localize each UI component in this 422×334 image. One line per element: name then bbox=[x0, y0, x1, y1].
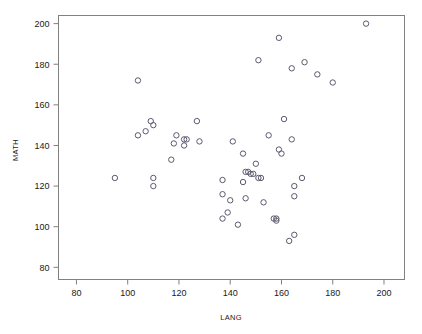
data-point bbox=[220, 192, 225, 197]
y-tick-label: 100 bbox=[34, 222, 49, 232]
data-point bbox=[228, 198, 233, 203]
data-point bbox=[243, 196, 248, 201]
data-point bbox=[240, 179, 245, 184]
data-point bbox=[289, 137, 294, 142]
x-tick-label: 180 bbox=[325, 288, 340, 298]
data-point bbox=[225, 210, 230, 215]
data-point bbox=[197, 139, 202, 144]
data-point bbox=[279, 151, 284, 156]
data-point bbox=[235, 222, 240, 227]
data-point bbox=[289, 66, 294, 71]
y-tick-label: 140 bbox=[34, 141, 49, 151]
data-point bbox=[276, 35, 281, 40]
data-point bbox=[292, 194, 297, 199]
data-point bbox=[151, 183, 156, 188]
y-tick-label: 180 bbox=[34, 60, 49, 70]
data-point bbox=[112, 175, 117, 180]
x-tick-label: 200 bbox=[376, 288, 391, 298]
x-axis-ticks: 80100120140160180200 bbox=[71, 280, 391, 298]
scatter-plot-figure: 80100120140160180200 8010012014016018020… bbox=[0, 0, 422, 334]
data-point bbox=[299, 175, 304, 180]
data-point bbox=[169, 157, 174, 162]
data-point bbox=[174, 133, 179, 138]
data-point bbox=[292, 183, 297, 188]
data-point bbox=[302, 60, 307, 65]
data-point bbox=[261, 200, 266, 205]
data-point bbox=[135, 78, 140, 83]
data-point bbox=[286, 238, 291, 243]
x-tick-label: 140 bbox=[223, 288, 238, 298]
data-point bbox=[135, 133, 140, 138]
data-point bbox=[292, 232, 297, 237]
plot-frame bbox=[59, 16, 405, 280]
x-tick-label: 160 bbox=[274, 288, 289, 298]
y-tick-label: 200 bbox=[34, 19, 49, 29]
data-point bbox=[143, 129, 148, 134]
data-point bbox=[220, 216, 225, 221]
data-point bbox=[171, 141, 176, 146]
data-point bbox=[181, 143, 186, 148]
y-tick-label: 120 bbox=[34, 181, 49, 191]
data-point bbox=[315, 72, 320, 77]
data-point bbox=[281, 116, 286, 121]
data-point-layer bbox=[112, 21, 369, 244]
data-point bbox=[151, 175, 156, 180]
data-point bbox=[256, 57, 261, 62]
data-point bbox=[330, 80, 335, 85]
x-tick-label: 120 bbox=[171, 288, 186, 298]
y-axis-ticks: 80100120140160180200 bbox=[34, 19, 58, 273]
data-point bbox=[253, 161, 258, 166]
x-axis-title: LANG bbox=[220, 313, 242, 322]
data-point bbox=[220, 177, 225, 182]
data-point bbox=[194, 118, 199, 123]
x-tick-label: 80 bbox=[71, 288, 81, 298]
y-axis-title: MATH bbox=[11, 139, 20, 161]
data-point bbox=[230, 139, 235, 144]
data-point bbox=[240, 151, 245, 156]
x-tick-label: 100 bbox=[120, 288, 135, 298]
scatter-plot-canvas: 80100120140160180200 8010012014016018020… bbox=[0, 0, 422, 334]
data-point bbox=[363, 21, 368, 26]
data-point bbox=[266, 133, 271, 138]
data-point bbox=[151, 122, 156, 127]
y-tick-label: 80 bbox=[39, 263, 49, 273]
y-tick-label: 160 bbox=[34, 100, 49, 110]
